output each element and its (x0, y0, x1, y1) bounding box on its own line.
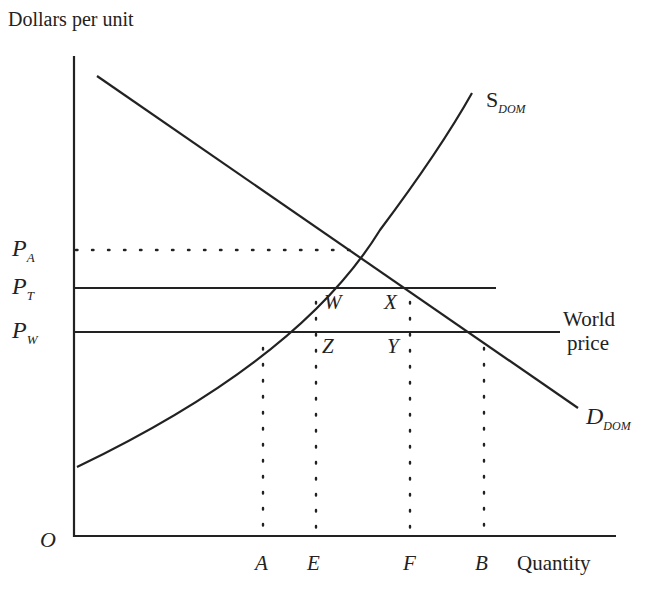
supply-curve (77, 93, 472, 467)
q-a-label: A (253, 551, 268, 575)
q-b-label: B (475, 551, 488, 575)
point-w-label: W (324, 290, 344, 314)
world-price-label-line1: World (563, 307, 615, 331)
world-price-label-line2: price (567, 331, 609, 355)
q-e-label: E (306, 551, 320, 575)
tariff-diagram: Dollars per unit PA PT PW SDOM DDOM Worl… (0, 0, 661, 608)
point-x-label: X (383, 290, 398, 314)
point-y-label: Y (387, 334, 401, 358)
origin-label: O (40, 527, 56, 552)
demand-curve (97, 76, 578, 408)
q-f-label: F (402, 551, 416, 575)
point-z-label: Z (322, 334, 334, 358)
pa-label: PA (11, 235, 35, 265)
supply-label: SDOM (486, 87, 527, 116)
pt-label: PT (11, 273, 35, 303)
x-axis-label: Quantity (517, 551, 591, 575)
demand-label: DDOM (585, 403, 632, 433)
y-axis-label: Dollars per unit (8, 8, 134, 31)
pw-label: PW (11, 317, 39, 347)
